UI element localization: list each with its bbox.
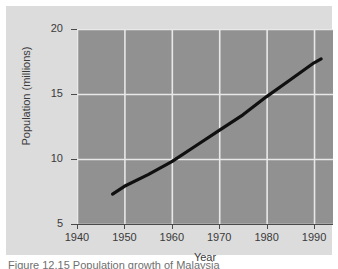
x-tick-label: 1980 [247,232,287,243]
y-tick-label: 5 [35,218,63,229]
figure-panel: 5101520 194019501960197019801990 Populat… [6,6,332,255]
x-tick-label: 1990 [294,232,334,243]
data-series-group [113,59,322,194]
x-axis-line [77,224,333,225]
y-tick-mark [71,29,77,30]
y-tick-mark [71,94,77,95]
figure-caption: Figure 12.15 Population growth of Malays… [8,259,328,269]
figure-container: 5101520 194019501960197019801990 Populat… [0,0,338,269]
x-tick-label: 1970 [199,232,239,243]
horizontal-gridlines [77,30,333,225]
x-tick-label: 1950 [104,232,144,243]
y-tick-mark [71,159,77,160]
y-tick-label: 15 [35,88,63,99]
data-line [113,59,322,194]
plot-area [77,29,333,224]
x-tick-label: 1940 [57,232,97,243]
x-tick-label: 1960 [152,232,192,243]
plot-svg [77,29,333,224]
y-tick-label: 10 [35,153,63,164]
y-axis-title: Population (millions) [20,41,32,151]
y-tick-label: 20 [35,23,63,34]
